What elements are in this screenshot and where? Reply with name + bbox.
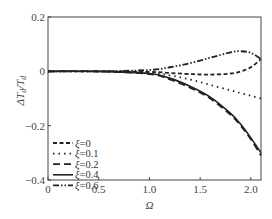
y-tick-label: 0.2 (31, 11, 45, 23)
x-tick-label: 1.0 (143, 183, 157, 195)
x-tick-label: 2.0 (244, 183, 258, 195)
series-line-4 (48, 51, 261, 71)
y-tick-label: −0.2 (25, 120, 45, 132)
line-chart: 0.20−0.2−0.400.51.01.52.0ΩΔTd/Tdξ=0ξ=0.1… (0, 0, 272, 219)
legend-label: ξ=0.6 (75, 180, 99, 192)
x-axis-label: Ω (145, 199, 153, 211)
y-tick-label: 0 (40, 65, 46, 77)
y-tick-label: −0.4 (25, 174, 45, 186)
chart-figure: 0.20−0.2−0.400.51.01.52.0ΩΔTd/Tdξ=0ξ=0.1… (0, 0, 272, 219)
x-tick-label: 1.5 (193, 183, 207, 195)
y-axis-label: ΔTd/Td (14, 75, 28, 107)
legend: ξ=0ξ=0.1ξ=0.2ξ=0.4ξ=0.6 (53, 138, 99, 192)
series-line-1 (48, 71, 261, 98)
x-tick-label: 0 (45, 183, 51, 195)
